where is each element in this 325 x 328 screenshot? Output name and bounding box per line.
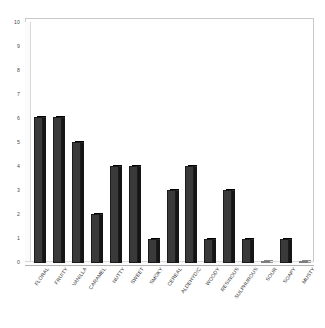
- bar-front-face: [204, 239, 213, 263]
- bar: [148, 239, 160, 265]
- bar-front-face: [72, 142, 81, 264]
- bar-side-face: [43, 117, 46, 263]
- x-tick-label: SMOKY: [148, 266, 164, 285]
- x-tick-label: CARAMEL: [88, 266, 108, 290]
- bar: [91, 214, 103, 265]
- bar: [72, 142, 84, 266]
- bar-side-face: [213, 239, 216, 263]
- bar: [53, 117, 65, 265]
- bar: [261, 261, 273, 265]
- bar-side-face: [100, 214, 103, 263]
- bar: [299, 261, 311, 265]
- bar-front-face: [280, 239, 289, 263]
- y-tick-label: 2: [0, 211, 20, 217]
- y-tick-label: 1: [0, 235, 20, 241]
- y-tick-label: 9: [0, 43, 20, 49]
- bar-side-face: [119, 166, 122, 263]
- x-tick-label: VANILLA: [71, 266, 88, 287]
- bar-front-face: [110, 166, 119, 263]
- x-tick-label: FRUITY: [53, 266, 69, 285]
- bar-side-face: [157, 239, 160, 263]
- bar-side-face: [232, 190, 235, 263]
- x-tick-label: FLORAL: [34, 266, 51, 286]
- y-tick-label: 6: [0, 115, 20, 121]
- bar-side-face: [138, 166, 141, 263]
- y-tick-label: 0: [0, 259, 20, 265]
- y-tick-label: 8: [0, 67, 20, 73]
- bar-front-face: [34, 117, 43, 263]
- bar: [167, 190, 179, 265]
- y-tick-label: 5: [0, 139, 20, 145]
- x-axis: FLORALFRUITYVANILLACARAMELNUTTYSWEETSMOK…: [30, 266, 314, 328]
- bar-front-face: [129, 166, 138, 263]
- bar-front-face: [185, 166, 194, 263]
- bar-front-face: [223, 190, 232, 263]
- bars-layer: [30, 22, 314, 265]
- x-tick-label: SOUR: [264, 266, 278, 282]
- bar: [110, 166, 122, 265]
- bar-side-face: [194, 166, 197, 263]
- bar-front-face: [167, 190, 176, 263]
- x-tick-label: WOODY: [204, 266, 221, 286]
- bar: [242, 239, 254, 265]
- bar-front-face: [53, 117, 62, 263]
- y-axis: 012345678910: [0, 18, 20, 266]
- y-tick-label: 3: [0, 187, 20, 193]
- bar: [280, 239, 292, 265]
- y-tick-label: 4: [0, 163, 20, 169]
- bar-front-face: [299, 261, 308, 263]
- x-tick-label: SWEET: [129, 266, 145, 285]
- bar-front-face: [242, 239, 251, 263]
- bar: [204, 239, 216, 265]
- bar-side-face: [176, 190, 179, 263]
- bar-chart: 012345678910 FLORALFRUITYVANILLACARAMELN…: [0, 0, 325, 328]
- bar-front-face: [148, 239, 157, 263]
- y-tick-label: 10: [0, 19, 20, 25]
- y-tick-label: 7: [0, 91, 20, 97]
- bar-side-face: [81, 142, 84, 264]
- x-tick-label: ALDEHYDIC: [179, 266, 201, 294]
- bar: [34, 117, 46, 265]
- bar: [223, 190, 235, 265]
- bar-side-face: [62, 117, 65, 263]
- x-tick-label: SOAPY: [281, 266, 296, 284]
- x-tick-label: CEREAL: [166, 266, 183, 287]
- x-tick-label: NUTTY: [111, 266, 126, 284]
- x-tick-label: MUSTY: [300, 266, 316, 285]
- bar: [185, 166, 197, 265]
- bar: [129, 166, 141, 265]
- bar-side-face: [251, 239, 254, 263]
- bar-front-face: [261, 261, 270, 263]
- x-tick-label: RESINOUS: [219, 266, 240, 292]
- bar-front-face: [91, 214, 100, 263]
- bar-side-face: [289, 239, 292, 263]
